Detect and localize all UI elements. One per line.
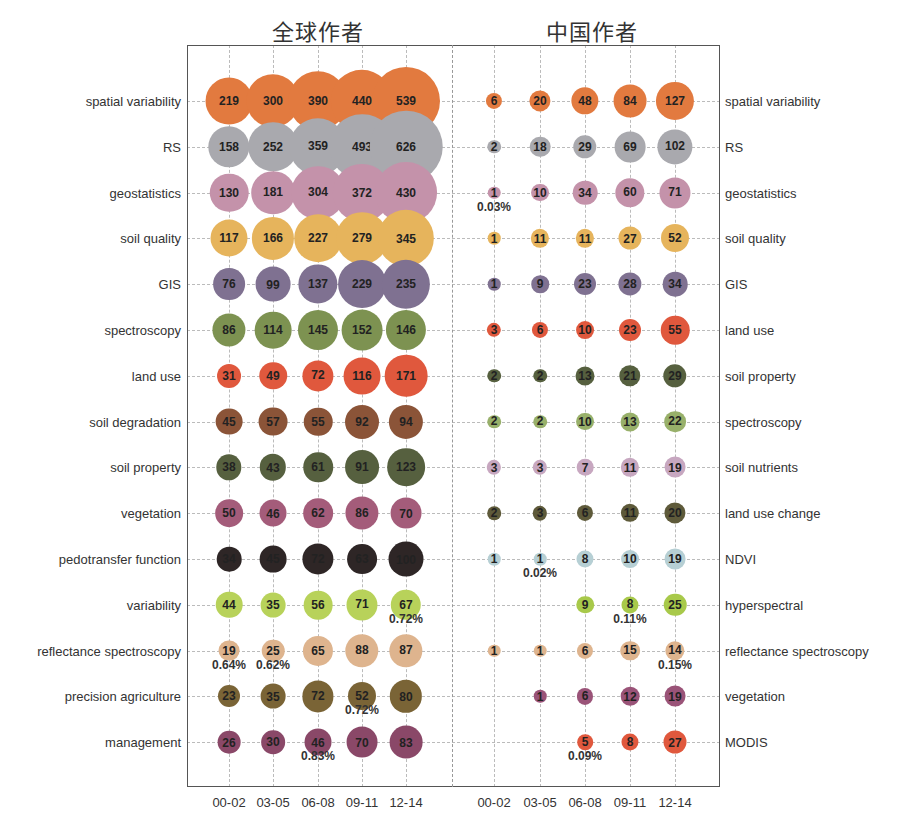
data-bubble: 50 xyxy=(215,499,243,527)
data-bubble: 181 xyxy=(251,171,295,215)
percentage-annotation: 0.02% xyxy=(523,566,557,580)
data-bubble: 5 xyxy=(577,734,593,750)
data-bubble: 44 xyxy=(216,592,243,619)
data-bubble: 1 xyxy=(488,644,501,657)
percentage-annotation: 0.72% xyxy=(389,612,423,626)
data-bubble: 2 xyxy=(487,415,501,429)
data-bubble: 91 xyxy=(345,450,379,484)
row-label: precision agriculture xyxy=(65,689,181,704)
data-bubble: 45 xyxy=(260,546,287,573)
data-bubble: 45 xyxy=(216,408,243,435)
row-label: soil quality xyxy=(725,231,786,246)
data-bubble: 35 xyxy=(261,684,286,709)
data-bubble: 1 xyxy=(534,553,547,566)
row-label: GIS xyxy=(725,277,747,292)
bubble-chart: 全球作者 中国作者 spatial variabilityRSgeostatis… xyxy=(0,0,902,822)
data-bubble: 19 xyxy=(665,457,686,478)
data-bubble: 1 xyxy=(534,644,547,657)
data-bubble: 69 xyxy=(615,131,646,162)
data-bubble: 34 xyxy=(663,272,688,297)
x-tick-label: 00-02 xyxy=(477,795,510,810)
data-bubble: 7 xyxy=(577,459,594,476)
data-bubble: 130 xyxy=(210,173,249,212)
row-label: land use change xyxy=(725,506,820,521)
data-bubble: 123 xyxy=(387,449,425,487)
row-label: GIS xyxy=(159,277,181,292)
data-bubble: 49 xyxy=(259,362,287,390)
data-bubble: 34 xyxy=(573,180,598,205)
x-tick-label: 06-08 xyxy=(301,795,334,810)
row-label: vegetation xyxy=(725,689,785,704)
row-label: soil nutrients xyxy=(725,460,798,475)
data-bubble: 100 xyxy=(389,542,424,577)
data-bubble: 27 xyxy=(664,731,687,754)
x-tick-label: 12-14 xyxy=(658,795,691,810)
row-label: land use xyxy=(725,323,774,338)
row-label: spectroscopy xyxy=(725,414,802,429)
data-bubble: 63 xyxy=(347,544,377,574)
data-bubble: 52 xyxy=(661,224,689,252)
data-bubble: 2 xyxy=(533,415,547,429)
data-bubble: 92 xyxy=(345,405,379,439)
data-bubble: 2 xyxy=(533,369,547,383)
row-label: management xyxy=(105,735,181,750)
data-bubble: 114 xyxy=(255,312,292,349)
row-label: soil degradation xyxy=(89,414,181,429)
panel-divider xyxy=(452,45,453,787)
x-tick-label: 09-11 xyxy=(614,795,646,810)
data-bubble: 152 xyxy=(342,310,383,351)
x-tick-label: 12-14 xyxy=(389,795,422,810)
data-bubble: 1 xyxy=(488,278,501,291)
percentage-annotation: 0.83% xyxy=(301,749,335,763)
row-label: reflectance spectroscopy xyxy=(725,643,869,658)
row-label: pedotransfer function xyxy=(59,552,181,567)
data-bubble: 23 xyxy=(619,319,641,341)
data-bubble: 22 xyxy=(664,411,686,433)
row-label: vegetation xyxy=(121,506,181,521)
row-label: NDVI xyxy=(725,552,756,567)
row-label: geostatistics xyxy=(725,185,797,200)
data-bubble: 19 xyxy=(665,549,686,570)
data-bubble: 1 xyxy=(488,232,501,245)
data-bubble: 8 xyxy=(576,550,593,567)
data-bubble: 76 xyxy=(213,268,245,300)
percentage-annotation: 0.03% xyxy=(477,200,511,214)
percentage-annotation: 0.09% xyxy=(568,749,602,763)
data-bubble: 10 xyxy=(621,550,639,568)
data-bubble: 171 xyxy=(385,354,428,397)
data-bubble: 84 xyxy=(614,85,647,118)
data-bubble: 9 xyxy=(576,596,594,614)
data-bubble: 57 xyxy=(259,407,288,436)
data-bubble: 46 xyxy=(260,500,287,527)
data-bubble: 1 xyxy=(488,553,501,566)
data-bubble: 8 xyxy=(621,734,638,751)
data-bubble: 2 xyxy=(487,369,501,383)
row-label: hyperspectral xyxy=(725,597,803,612)
data-bubble: 56 xyxy=(304,590,333,619)
data-bubble: 2 xyxy=(487,140,501,154)
data-bubble: 25 xyxy=(664,594,687,617)
data-bubble: 70 xyxy=(347,727,378,758)
data-bubble: 2 xyxy=(487,506,501,520)
data-bubble: 23 xyxy=(574,273,596,295)
row-label: MODIS xyxy=(725,735,768,750)
x-tick-label: 06-08 xyxy=(568,795,601,810)
data-bubble: 19 xyxy=(665,686,686,707)
data-bubble: 71 xyxy=(346,589,377,620)
data-bubble: 61 xyxy=(303,453,333,483)
data-bubble: 13 xyxy=(621,412,640,431)
data-bubble: 23 xyxy=(218,685,240,707)
data-bubble: 145 xyxy=(298,310,338,350)
data-bubble: 10 xyxy=(531,184,549,202)
data-bubble: 8 xyxy=(621,596,638,613)
data-bubble: 70 xyxy=(391,498,422,529)
data-bubble: 9 xyxy=(531,275,549,293)
data-bubble: 117 xyxy=(210,220,247,257)
data-bubble: 30 xyxy=(261,730,285,754)
data-bubble: 55 xyxy=(661,316,690,345)
data-bubble: 18 xyxy=(530,137,551,158)
x-tick-label: 03-05 xyxy=(523,795,556,810)
data-bubble: 27 xyxy=(619,227,642,250)
row-label: land use xyxy=(132,368,181,383)
row-label: spatial variability xyxy=(725,94,820,109)
